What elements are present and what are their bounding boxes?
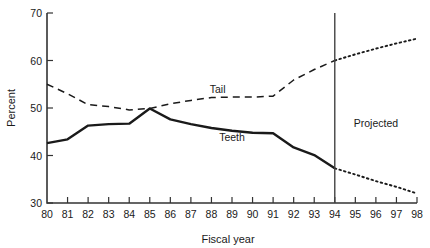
x-tick-label: 81 — [62, 208, 74, 220]
x-tick-label: 88 — [206, 208, 218, 220]
x-tick-label: 86 — [164, 208, 176, 220]
x-tick-label: 80 — [41, 208, 53, 220]
line-chart: 3040506070808182838485868788899091929394… — [0, 0, 430, 248]
axis-tick-labels: 3040506070808182838485868788899091929394… — [30, 7, 423, 220]
x-tick-label: 98 — [411, 208, 423, 220]
x-axis-title: Fiscal year — [201, 233, 255, 245]
x-tick-label: 97 — [391, 208, 403, 220]
x-tick-label: 95 — [349, 208, 361, 220]
y-tick-label: 60 — [30, 55, 42, 67]
axis-lines — [47, 13, 417, 203]
y-tick-label: 50 — [30, 102, 42, 114]
y-axis-title: Percent — [5, 89, 17, 127]
x-tick-label: 84 — [123, 208, 135, 220]
y-tick-label: 40 — [30, 150, 42, 162]
x-tick-label: 94 — [329, 208, 341, 220]
x-tick-label: 87 — [185, 208, 197, 220]
x-tick-label: 82 — [82, 208, 94, 220]
chart-container: 3040506070808182838485868788899091929394… — [0, 0, 430, 248]
chart-annotations: ProjectedTailTeeth — [210, 83, 398, 143]
x-tick-label: 89 — [226, 208, 238, 220]
projected-label: Projected — [354, 117, 399, 129]
x-tick-label: 91 — [267, 208, 279, 220]
axis-ticks — [47, 13, 417, 203]
x-tick-label: 93 — [308, 208, 320, 220]
x-tick-label: 90 — [247, 208, 259, 220]
x-tick-label: 85 — [144, 208, 156, 220]
x-tick-label: 96 — [370, 208, 382, 220]
x-tick-label: 92 — [288, 208, 300, 220]
y-tick-label: 70 — [30, 7, 42, 19]
series-line-teeth — [47, 108, 335, 168]
series-line-tail-projected — [335, 39, 417, 61]
series-label-tail: Tail — [210, 83, 226, 95]
series-label-teeth: Teeth — [219, 131, 245, 143]
series-line-teeth-projected — [335, 168, 417, 193]
series-line-tail — [47, 61, 335, 110]
x-tick-label: 83 — [103, 208, 115, 220]
